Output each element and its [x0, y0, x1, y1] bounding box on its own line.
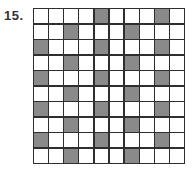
grid-cell-blank [64, 9, 78, 23]
grid-cell-shaded [64, 149, 78, 163]
grid-cell-blank [140, 25, 154, 39]
grid-cell-shaded [64, 118, 78, 132]
grid-cell-blank [64, 71, 78, 85]
grid-cell-shaded [95, 40, 109, 54]
grid-cell-blank [79, 102, 93, 116]
grid-cell-shaded [155, 71, 169, 85]
grid-cell-blank [170, 56, 184, 70]
grid-cell-blank [140, 40, 154, 54]
grid-cell-blank [79, 71, 93, 85]
grid-cell-shaded [155, 102, 169, 116]
grid-cell-blank [110, 25, 124, 39]
grid-cell-blank [125, 133, 139, 147]
grid-cell-blank [49, 71, 63, 85]
grid-cell-shaded [125, 87, 139, 101]
grid-cell-blank [79, 9, 93, 23]
grid-cell-blank [95, 56, 109, 70]
grid-cell-blank [79, 149, 93, 163]
grid-cell-blank [79, 40, 93, 54]
grid-cell-shaded [34, 133, 48, 147]
grid-cell-blank [110, 149, 124, 163]
grid-cell-blank [140, 56, 154, 70]
grid-cell-blank [155, 25, 169, 39]
grid-cell-blank [110, 71, 124, 85]
grid-cell-blank [140, 102, 154, 116]
grid-cell-blank [110, 133, 124, 147]
grid-cell-blank [49, 118, 63, 132]
grid-cell-blank [155, 149, 169, 163]
grid-cell-blank [125, 71, 139, 85]
grid-cell-shaded [64, 87, 78, 101]
grid-cell-blank [170, 9, 184, 23]
grid-cell-blank [34, 25, 48, 39]
problem-number-label: 15. [4, 8, 24, 23]
grid-cell-shaded [34, 71, 48, 85]
grid-cell-blank [64, 40, 78, 54]
grid-cell-blank [34, 9, 48, 23]
grid-cell-blank [79, 87, 93, 101]
grid-cell-blank [110, 87, 124, 101]
grid-cell-blank [140, 118, 154, 132]
grid-cell-shaded [155, 133, 169, 147]
grid-cell-shaded [125, 56, 139, 70]
grid-cell-shaded [95, 9, 109, 23]
grid-cell-shaded [34, 40, 48, 54]
grid-cell-shaded [95, 102, 109, 116]
grid-cell-blank [125, 9, 139, 23]
grid-cell-blank [64, 133, 78, 147]
grid-cell-blank [95, 149, 109, 163]
grid-cell-blank [125, 102, 139, 116]
grid-cell-blank [140, 149, 154, 163]
grid-cell-blank [95, 87, 109, 101]
grid-cell-blank [170, 40, 184, 54]
grid-cell-blank [49, 149, 63, 163]
grid-cell-blank [79, 25, 93, 39]
grid-cell-blank [79, 118, 93, 132]
grid-cell-blank [140, 71, 154, 85]
grid-cell-shaded [34, 102, 48, 116]
grid-cell-blank [49, 9, 63, 23]
grid-cell-blank [79, 56, 93, 70]
grid-cell-blank [49, 25, 63, 39]
grid-cell-blank [170, 118, 184, 132]
grid-cell-blank [95, 118, 109, 132]
grid-cell-blank [110, 40, 124, 54]
grid-cell-blank [155, 87, 169, 101]
grid-cell-blank [49, 133, 63, 147]
grid-cell-shaded [125, 149, 139, 163]
grid-cell-blank [170, 25, 184, 39]
grid-cell-blank [170, 102, 184, 116]
grid-cell-shaded [64, 25, 78, 39]
grid-cell-blank [170, 71, 184, 85]
grid-cell-blank [155, 118, 169, 132]
grid-cell-blank [140, 9, 154, 23]
grid-cell-blank [110, 56, 124, 70]
grid-cell-blank [110, 118, 124, 132]
grid-cell-shaded [125, 118, 139, 132]
grid-cell-blank [49, 56, 63, 70]
grid-cell-blank [49, 87, 63, 101]
grid-cell-blank [34, 56, 48, 70]
grid-cell-blank [170, 133, 184, 147]
grid-cell-blank [140, 133, 154, 147]
grid-cell-blank [49, 102, 63, 116]
shaded-grid-10x10 [33, 8, 185, 164]
grid-cell-blank [170, 87, 184, 101]
grid-cell-blank [95, 25, 109, 39]
grid-cell-shaded [125, 25, 139, 39]
grid-cell-blank [34, 149, 48, 163]
grid-cell-shaded [95, 71, 109, 85]
grid-cell-blank [49, 40, 63, 54]
grid-cell-shaded [64, 56, 78, 70]
grid-cell-blank [170, 149, 184, 163]
grid-cell-shaded [95, 133, 109, 147]
grid-cell-shaded [155, 40, 169, 54]
grid-cell-blank [125, 40, 139, 54]
grid-cell-blank [110, 102, 124, 116]
grid-cell-blank [79, 133, 93, 147]
grid-cell-blank [64, 102, 78, 116]
grid-cell-shaded [155, 9, 169, 23]
grid-cell-blank [34, 87, 48, 101]
grid-cell-blank [140, 87, 154, 101]
grid-cell-blank [110, 9, 124, 23]
